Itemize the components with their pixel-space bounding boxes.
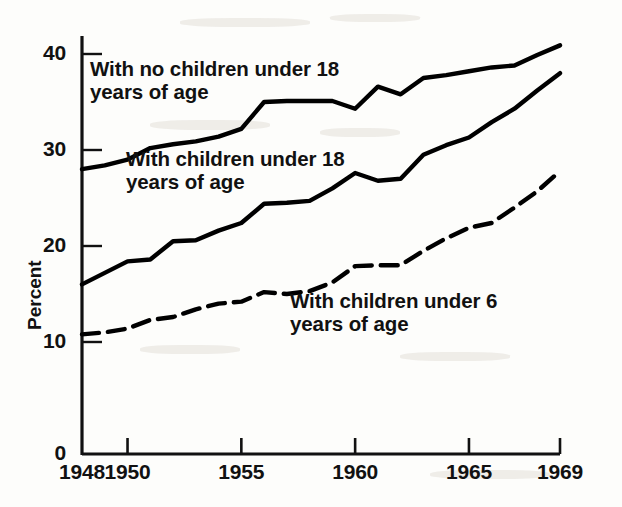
series-annotation-label: With no children under 18years of age [90,58,339,104]
series-annotation-line-1: With children under 6 [290,290,497,313]
x-axis-tick-label: 1960 [323,460,387,484]
x-axis-tick-label: 1950 [96,460,160,484]
x-axis-ticks [82,438,560,454]
x-axis-tick-label: 1965 [437,460,501,484]
x-axis-tick-label: 1955 [209,460,273,484]
y-axis-title: Percent [24,260,45,330]
series-annotation-line-2: years of age [90,81,339,104]
x-axis-tick-label: 1969 [528,460,592,484]
series-annotation-line-2: years of age [126,171,345,194]
y-axis-tick-label: 30 [14,137,66,161]
series-annotation-line-2: years of age [290,313,497,336]
series-annotation-label: With children under 18years of age [126,148,345,194]
chart-container: Percent 010203040 1948195019551960196519… [0,0,622,507]
series-annotation-label: With children under 6years of age [290,290,497,336]
y-axis-ticks [82,54,102,454]
y-axis-tick-label: 20 [14,233,66,257]
y-axis-tick-label: 40 [14,41,66,65]
series-annotation-line-1: With children under 18 [126,148,345,171]
y-axis-tick-label: 10 [14,329,66,353]
series-annotation-line-1: With no children under 18 [90,58,339,81]
